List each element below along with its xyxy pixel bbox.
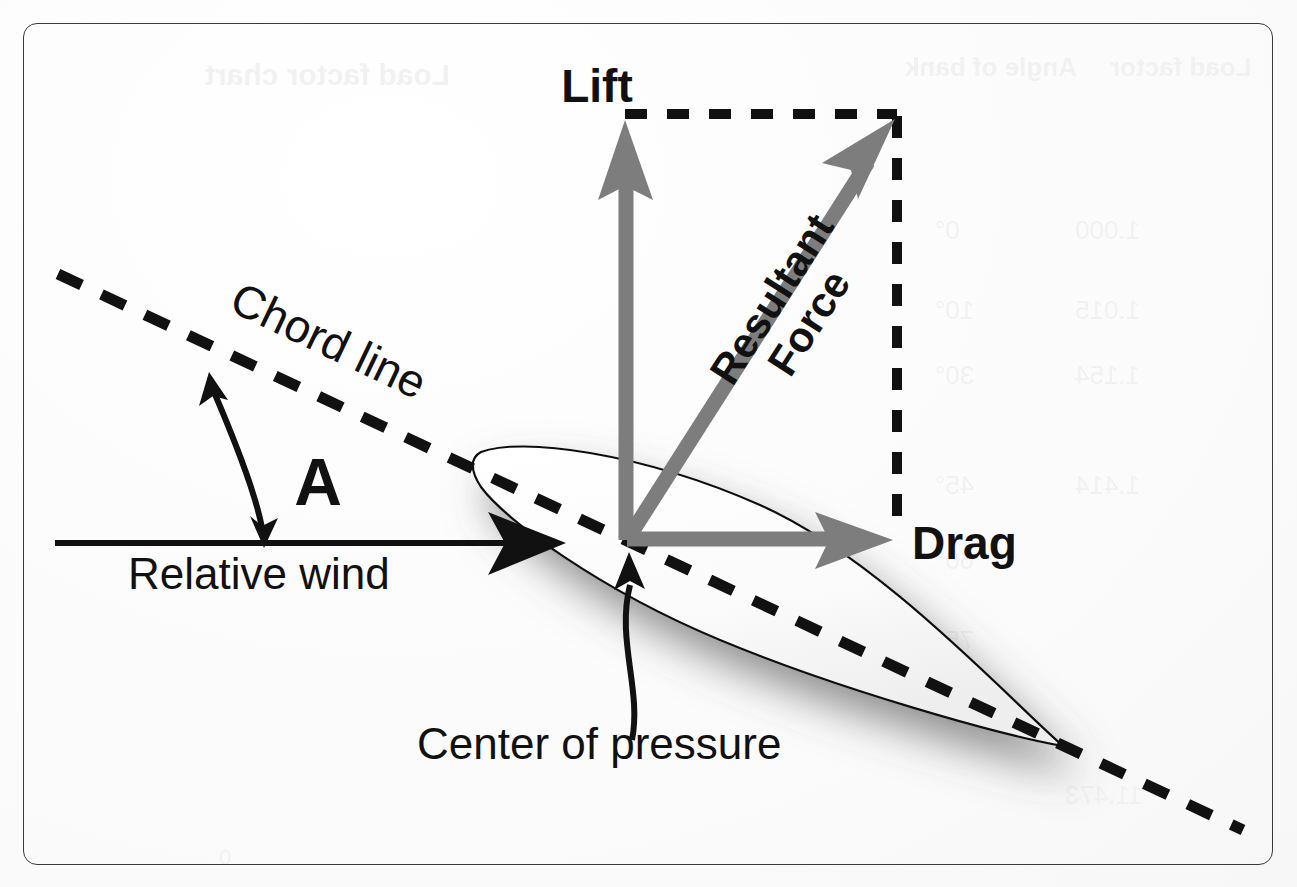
center-of-pressure-label: Center of pressure — [417, 719, 781, 768]
angle-of-attack-label: A — [294, 445, 342, 519]
force-diagram: Lift Drag Resultant Force Chord line A R… — [0, 0, 1297, 887]
drag-label: Drag — [912, 517, 1017, 569]
chord-line-label: Chord line — [223, 272, 435, 409]
angle-arc-arrowhead-top — [199, 372, 228, 406]
relative-wind-label: Relative wind — [128, 549, 390, 598]
figure-canvas: Load factor chart Angle of bank Load fac… — [0, 0, 1297, 887]
center-of-pressure-leader-line — [626, 585, 635, 740]
lift-label: Lift — [561, 60, 633, 112]
angle-of-attack-arc — [214, 392, 262, 528]
